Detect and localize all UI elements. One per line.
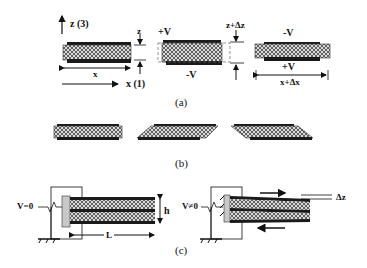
z-axis-label: z (3) <box>70 18 89 30</box>
bimorph-diagram: z (3) x (1) x z +V -V z+Δz -V +V <box>0 0 367 268</box>
piezo-element <box>63 45 131 60</box>
panel-a: z (3) x (1) x z +V -V z+Δz -V +V <box>62 16 330 109</box>
hatch-marks <box>220 196 224 216</box>
bottom-electrode <box>67 59 131 63</box>
panel-b: (b) <box>54 124 313 170</box>
mid-top-voltage: +V <box>158 26 172 37</box>
clamp-block <box>224 195 230 222</box>
bottom-electrode <box>57 137 119 140</box>
bottom-electrode <box>166 61 222 65</box>
caption-a: (a) <box>175 96 188 109</box>
length-label: L <box>106 230 112 240</box>
clamp-block <box>62 196 70 227</box>
x-dimension-label: x <box>93 69 98 79</box>
right-bottom-voltage: +V <box>282 61 296 72</box>
panel-c: V=0 h L V≠0 <box>17 187 346 257</box>
x-delta-label: x+Δx <box>280 77 300 87</box>
thickness-label: h <box>164 205 170 216</box>
piezo-sheared-right <box>231 126 313 138</box>
wire <box>38 202 62 212</box>
ground-symbol <box>38 239 60 243</box>
deflection-label: Δz <box>336 192 346 202</box>
x-axis-label: x (1) <box>126 78 145 90</box>
right-voltage-label: V≠0 <box>182 201 198 211</box>
caption-b: (b) <box>175 157 188 170</box>
piezo-element-expanded <box>162 43 222 62</box>
bottom-electrode <box>250 137 312 140</box>
mid-bottom-voltage: -V <box>186 69 197 80</box>
piezo-sheared-left <box>137 126 218 138</box>
piezo-unsheared <box>54 126 122 138</box>
piezo-layer-bottom <box>70 212 155 221</box>
wire <box>201 202 223 212</box>
caption-c: (c) <box>175 244 188 257</box>
right-top-voltage: -V <box>283 27 294 38</box>
left-voltage-label: V=0 <box>17 201 34 211</box>
bottom-electrode <box>138 137 200 140</box>
z-delta-label: z+Δz <box>226 20 245 30</box>
piezo-layer-top <box>70 200 155 209</box>
piezo-element-elongated <box>255 44 330 58</box>
ground-symbol <box>200 239 222 243</box>
